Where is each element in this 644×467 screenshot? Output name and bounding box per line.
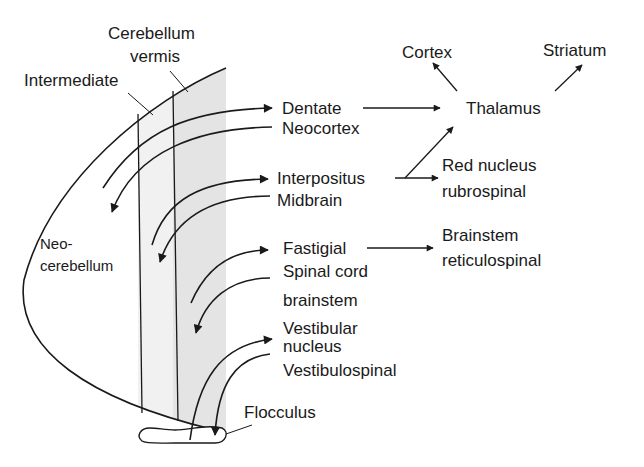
flocculus-leader-line — [226, 425, 252, 434]
midbrain-label: Midbrain — [277, 191, 342, 210]
vermis-label-line2: vermis — [130, 47, 180, 66]
shaded-zones — [138, 60, 226, 440]
intermediate-label: Intermediate — [24, 71, 119, 90]
thalamus-label: Thalamus — [466, 99, 541, 118]
vestibular-label-line2: nucleus — [283, 337, 342, 356]
thalamus-to-cortex-arrow — [433, 63, 457, 91]
flocculus-label: Flocculus — [244, 403, 316, 422]
brainstem-target-label-line2: reticulospinal — [442, 251, 541, 270]
vermis-label-line1: Cerebellum — [108, 24, 195, 43]
neocerebellum-label-line2: cerebellum — [40, 257, 113, 274]
cortex-label: Cortex — [402, 43, 453, 62]
intermediate-leader-line — [128, 93, 153, 115]
spinal-cord-label: Spinal cord — [283, 262, 368, 281]
vestibulospinal-label: Vestibulospinal — [283, 361, 396, 380]
red-nucleus-label-line2: rubrospinal — [442, 182, 526, 201]
red-nucleus-label-line1: Red nucleus — [442, 156, 537, 175]
brainstem-input-label: brainstem — [283, 291, 358, 310]
cerebellum-pathway-diagram: Cerebellum vermis Intermediate Neo- cere… — [0, 0, 644, 467]
flocculus-shape — [139, 427, 226, 444]
dentate-label: Dentate — [282, 99, 342, 118]
neocortex-label: Neocortex — [282, 119, 360, 138]
brainstem-target-label-line1: Brainstem — [442, 226, 519, 245]
vermis-leader-line — [170, 71, 188, 92]
thalamus-to-striatum-arrow — [555, 65, 582, 91]
vestibular-label-line1: Vestibular — [283, 319, 358, 338]
interpositus-label: Interpositus — [277, 169, 365, 188]
striatum-label: Striatum — [543, 41, 606, 60]
fastigial-label: Fastigial — [283, 239, 346, 258]
neocerebellum-label-line1: Neo- — [40, 235, 73, 252]
